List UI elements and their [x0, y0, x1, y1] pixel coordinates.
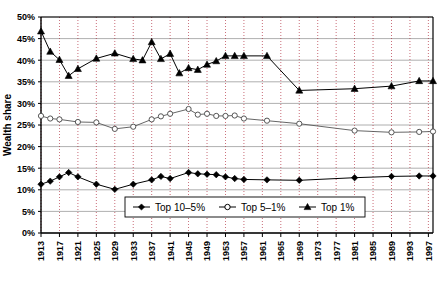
chart-canvas: 0%5%10%15%20%25%30%35%40%45%50%191319171…: [0, 0, 441, 282]
y-tick-label: 20%: [17, 142, 35, 152]
legend-label: Top 5–1%: [241, 202, 286, 213]
marker-circle-open: [94, 120, 99, 125]
x-tick-label: 1925: [92, 241, 102, 261]
marker-circle-open: [204, 111, 209, 116]
marker-circle-open: [430, 129, 435, 134]
y-axis-title: Wealth share: [2, 94, 13, 156]
marker-circle-open: [214, 113, 219, 118]
marker-circle-open: [417, 129, 422, 134]
marker-circle-open: [186, 106, 191, 111]
y-tick-label: 15%: [17, 164, 35, 174]
x-tick-label: 1993: [405, 241, 415, 261]
y-tick-label: 40%: [17, 56, 35, 66]
x-tick-label: 1933: [129, 241, 139, 261]
marker-circle-open: [112, 126, 117, 131]
marker-circle-open: [352, 128, 357, 133]
x-tick-label: 1989: [387, 241, 397, 261]
marker-circle-open: [389, 130, 394, 135]
marker-circle-open: [158, 114, 163, 119]
y-tick-label: 35%: [17, 77, 35, 87]
y-tick-label: 50%: [17, 12, 35, 22]
y-tick-label: 30%: [17, 99, 35, 109]
marker-circle-open: [48, 116, 53, 121]
marker-circle-open: [195, 112, 200, 117]
x-tick-label: 1937: [147, 241, 157, 261]
marker-circle-open: [264, 118, 269, 123]
x-tick-label: 1949: [202, 241, 212, 261]
marker-circle-open: [225, 204, 230, 209]
marker-circle-open: [223, 113, 228, 118]
y-tick-label: 25%: [17, 120, 35, 130]
marker-circle-open: [168, 111, 173, 116]
marker-circle-open: [149, 117, 154, 122]
x-tick-label: 1929: [110, 241, 120, 261]
marker-circle-open: [57, 117, 62, 122]
legend-label: Top 1%: [321, 202, 354, 213]
y-tick-label: 0%: [22, 228, 35, 238]
x-tick-label: 1961: [258, 241, 268, 261]
x-tick-label: 1945: [184, 241, 194, 261]
marker-circle-open: [297, 121, 302, 126]
x-tick-label: 1977: [332, 241, 342, 261]
x-tick-label: 1997: [424, 241, 434, 261]
x-tick-label: 1941: [166, 241, 176, 261]
legend-label: Top 10–5%: [155, 202, 205, 213]
y-tick-label: 45%: [17, 34, 35, 44]
x-tick-label: 1917: [55, 241, 65, 261]
wealth-share-chart: 0%5%10%15%20%25%30%35%40%45%50%191319171…: [0, 0, 441, 282]
x-tick-label: 1981: [350, 241, 360, 261]
x-tick-label: 1965: [276, 241, 286, 261]
y-tick-label: 10%: [17, 185, 35, 195]
x-tick-label: 1953: [221, 241, 231, 261]
x-tick-label: 1969: [295, 241, 305, 261]
marker-circle-open: [232, 113, 237, 118]
marker-circle-open: [131, 124, 136, 129]
x-tick-label: 1985: [368, 241, 378, 261]
x-tick-label: 1973: [313, 241, 323, 261]
x-tick-label: 1957: [239, 241, 249, 261]
x-tick-label: 1921: [73, 241, 83, 261]
marker-circle-open: [38, 113, 43, 118]
marker-circle-open: [241, 116, 246, 121]
x-tick-label: 1913: [36, 241, 46, 261]
y-tick-label: 5%: [22, 207, 35, 217]
marker-circle-open: [75, 119, 80, 124]
